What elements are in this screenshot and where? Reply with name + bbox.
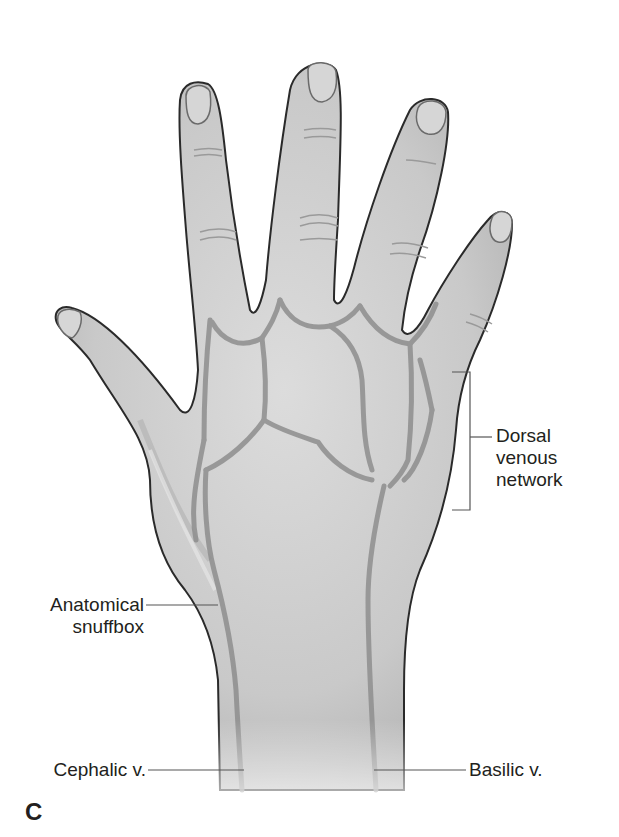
label-line: Dorsal [496, 425, 563, 447]
label-dorsal-venous-network: Dorsal venous network [496, 425, 563, 491]
label-cephalic-vein: Cephalic v. [20, 759, 146, 781]
wrist-fade [200, 720, 430, 837]
hand-shape [56, 64, 512, 790]
panel-letter: C [25, 798, 42, 826]
label-line: snuffbox [20, 616, 144, 638]
label-line: venous [496, 447, 563, 469]
label-line: Anatomical [20, 594, 144, 616]
label-basilic-vein: Basilic v. [469, 759, 543, 781]
label-anatomical-snuffbox: Anatomical snuffbox [20, 594, 144, 638]
label-line: network [496, 469, 563, 491]
hand-illustration [0, 0, 619, 837]
